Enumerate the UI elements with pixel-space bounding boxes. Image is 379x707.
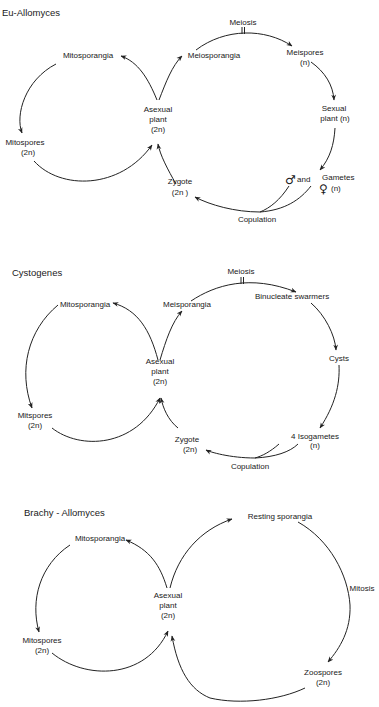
diagram-title: Cystogenes <box>12 267 62 278</box>
label-binucleate-swarmers: Binucleate swarmers <box>255 292 329 301</box>
arrow-zoospores-to-asexual <box>172 636 305 701</box>
label-asexual-plant: Asexual <box>146 357 175 366</box>
label-meispores-ploidy: (n) <box>300 58 310 67</box>
label-meiosis: Meiosis <box>227 267 254 276</box>
arrow-asexual-to-meiosporangia <box>159 56 182 100</box>
label-isogametes: 4 Isogametes <box>291 432 339 441</box>
label-zoospores: Zoospores <box>304 668 342 677</box>
arrow-binucleate-to-cysts <box>311 303 336 350</box>
arrow-mitosporangia-to-mitospores <box>20 64 56 133</box>
arrow-meispores-to-sexual-plant <box>311 62 334 100</box>
arrow-sexual-plant-to-gametes <box>320 128 335 170</box>
female-symbol: ♀ <box>319 182 328 196</box>
arrow-asexual-to-mitosporangia <box>126 540 167 588</box>
diagram-title: Eu-Allomyces <box>2 7 60 18</box>
label-cysts: Cysts <box>329 354 349 363</box>
label-resting-sporangia: Resting sporangia <box>248 512 313 521</box>
label-asexual-plant-2: plant <box>159 601 177 610</box>
label-and: and <box>297 175 310 184</box>
eu-allomyces-cycle: Eu-Allomyces Mitosporangia Meiosporangia… <box>2 7 354 224</box>
label-copulation: Copulation <box>238 215 276 224</box>
arrow-resting-sporangia-to-zoospores <box>298 522 350 662</box>
arrow-mitosporangia-to-mitspores <box>26 305 58 408</box>
arrow-asexual-to-mitosporangia <box>121 56 157 100</box>
label-gametes-ploidy: (n) <box>331 184 341 193</box>
diagram-title: Brachy - Allomyces <box>24 507 105 518</box>
label-meispores: Meispores <box>287 48 324 57</box>
arrow-mitosporangia-to-mitospores <box>36 545 70 632</box>
isogamete-line-1 <box>255 444 279 458</box>
label-asexual-plant-ploidy: (2n) <box>161 611 176 620</box>
label-meisporangia: Meisporangia <box>163 300 212 309</box>
arrow-asexual-to-resting-sporangia <box>170 519 232 588</box>
label-meiosis: Meiosis <box>229 18 256 27</box>
label-asexual-plant-2: plant <box>149 115 167 124</box>
label-mitospores: Mitospores <box>5 138 44 147</box>
label-zygote: Zygote <box>168 177 193 186</box>
label-zygote: Zygote <box>175 435 200 444</box>
label-mitspores: Mitspores <box>18 411 53 420</box>
label-mitospores: Mitospores <box>22 636 61 645</box>
arrow-mitspores-to-asexual <box>52 398 160 441</box>
male-symbol: ♂ <box>285 173 296 187</box>
label-zygote-ploidy: (2n) <box>183 445 198 454</box>
label-asexual-plant: Asexual <box>154 591 183 600</box>
arrow-copulation-to-zygote <box>206 450 255 458</box>
label-sexual-plant: Sexual <box>322 104 347 113</box>
label-sexual-plant-ploidy: plant (n) <box>320 114 350 123</box>
label-mitosporangia: Mitosporangia <box>63 51 114 60</box>
label-meiosporangia: Meiosporangia <box>188 51 241 60</box>
label-asexual-plant-ploidy: (2n) <box>153 377 168 386</box>
label-asexual-plant-2: plant <box>151 367 169 376</box>
label-asexual-plant-ploidy: (2n) <box>151 125 166 134</box>
label-zygote-ploidy: (2n ) <box>172 188 189 197</box>
arrow-copulation-to-zygote <box>195 197 260 212</box>
arrow-meiosporangia-to-meispores <box>196 33 292 50</box>
label-gametes: Gametes <box>322 173 354 182</box>
label-mitspores-ploidy: (2n) <box>28 421 43 430</box>
life-cycle-diagrams: Eu-Allomyces Mitosporangia Meiosporangia… <box>0 0 379 707</box>
label-mitosis: Mitosis <box>350 584 375 593</box>
arrow-asexual-to-mitosporangia <box>113 303 158 360</box>
label-mitosporangia: Mitosporangia <box>75 534 126 543</box>
label-mitospores-ploidy: (2n) <box>21 148 36 157</box>
cystogenes-cycle: Cystogenes Mitosporangia Meisporangia Me… <box>12 267 349 471</box>
brachy-allomyces-cycle: Brachy - Allomyces Mitosporangia Resting… <box>22 507 374 701</box>
arrow-cysts-to-isogametes <box>320 365 339 428</box>
arrow-asexual-to-meisporangia <box>160 311 182 360</box>
arrow-zygote-to-asexual <box>161 398 178 428</box>
male-gamete-line <box>260 186 289 212</box>
label-mitospores-ploidy: (2n) <box>35 646 50 655</box>
arrow-mitospores-to-asexual <box>34 145 152 181</box>
label-mitosporangia: Mitosporangia <box>60 300 111 309</box>
label-asexual-plant: Asexual <box>144 105 173 114</box>
arrow-mitospores-to-asexual <box>52 631 168 671</box>
label-zoospores-ploidy: (2n) <box>316 678 331 687</box>
label-copulation: Copulation <box>231 462 269 471</box>
label-isogametes-ploidy: (n) <box>310 441 320 450</box>
